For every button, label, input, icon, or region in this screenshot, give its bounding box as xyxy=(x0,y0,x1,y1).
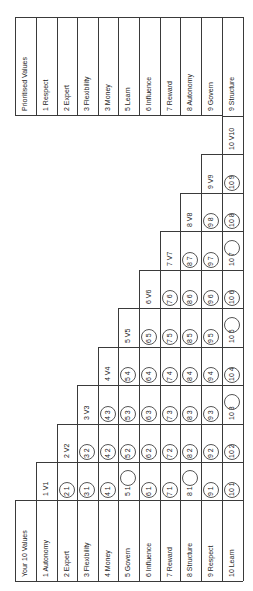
choice-circle[interactable] xyxy=(79,444,95,460)
prioritised-item: 1 Respect xyxy=(42,79,50,111)
matrix-right-edge xyxy=(243,116,244,500)
choice-circle[interactable] xyxy=(182,470,198,486)
matrix-header-v6: 6 V6 xyxy=(145,290,153,304)
choice-circle[interactable] xyxy=(100,406,116,422)
choice-circle[interactable] xyxy=(203,213,219,229)
choice-circle[interactable] xyxy=(182,406,198,422)
choice-circle[interactable] xyxy=(182,367,198,383)
prioritised-item: 2 Expert xyxy=(63,85,71,111)
choice-circle[interactable] xyxy=(224,444,240,460)
matrix-col-line xyxy=(77,385,78,500)
matrix-header-v3: 3 V3 xyxy=(83,406,91,420)
matrix-header-v8: 8 V8 xyxy=(186,213,194,227)
choice-circle[interactable] xyxy=(59,482,75,498)
matrix-row-line xyxy=(222,116,243,117)
choice-circle[interactable] xyxy=(203,252,219,268)
choice-circle[interactable] xyxy=(203,444,219,460)
choice-circle[interactable] xyxy=(141,329,157,345)
choice-circle[interactable] xyxy=(203,406,219,422)
value-item: 7 Reward xyxy=(166,547,174,577)
choice-circle[interactable] xyxy=(162,482,178,498)
names-divider xyxy=(118,500,119,581)
matrix-row-line xyxy=(57,424,243,425)
prioritised-divider xyxy=(98,17,99,115)
prioritised-divider xyxy=(222,17,223,115)
choice-circle[interactable] xyxy=(182,252,198,268)
prioritised-table-bottom xyxy=(15,115,223,116)
choice-circle[interactable] xyxy=(162,406,178,422)
choice-circle[interactable] xyxy=(182,329,198,345)
names-divider xyxy=(57,500,58,581)
choice-circle[interactable] xyxy=(224,290,240,306)
choice-circle[interactable] xyxy=(120,367,136,383)
choice-circle[interactable] xyxy=(162,367,178,383)
names-divider xyxy=(36,500,37,581)
matrix-header-v1: 1 V1 xyxy=(42,482,50,496)
choice-circle[interactable] xyxy=(100,482,116,498)
names-table-left xyxy=(15,500,16,581)
choice-circle[interactable] xyxy=(79,482,95,498)
choice-circle[interactable] xyxy=(224,317,240,333)
prioritised-divider xyxy=(77,17,78,115)
value-item: 1 Autonomy xyxy=(42,540,50,577)
choice-circle[interactable] xyxy=(224,240,240,256)
matrix-col-line xyxy=(180,193,181,500)
choice-circle[interactable] xyxy=(224,175,240,191)
choice-circle[interactable] xyxy=(120,444,136,460)
prioritised-divider xyxy=(160,17,161,115)
choice-circle[interactable] xyxy=(224,213,240,229)
choice-circle[interactable] xyxy=(224,394,240,410)
matrix-col-line xyxy=(201,154,202,500)
matrix-header-v7: 7 V7 xyxy=(166,252,174,266)
values-header: Your 10 Values xyxy=(21,530,29,577)
names-table-right xyxy=(243,500,244,581)
names-divider xyxy=(139,500,140,581)
matrix-header-v2: 2 V2 xyxy=(63,444,71,458)
matrix-col-line xyxy=(36,462,37,500)
matrix-header-v9: 9 V9 xyxy=(207,175,215,189)
choice-circle[interactable] xyxy=(141,406,157,422)
names-table-top xyxy=(15,500,243,501)
pair-cell: 5 1 xyxy=(124,486,132,496)
value-item: 6 Influence xyxy=(145,543,153,577)
prioritised-header: Prioritised Values xyxy=(21,57,29,111)
choice-circle[interactable] xyxy=(141,444,157,460)
prioritised-item: 9 Govern xyxy=(207,82,215,111)
prioritised-item: 3 Money xyxy=(104,84,112,111)
prioritised-item: 9 Structure xyxy=(228,77,236,111)
prioritised-divider xyxy=(201,17,202,115)
choice-circle[interactable] xyxy=(224,367,240,383)
matrix-col-line xyxy=(160,231,161,500)
choice-circle[interactable] xyxy=(162,444,178,460)
prioritised-item: 6 Influence xyxy=(145,77,153,111)
value-item: 2 Expert xyxy=(63,551,71,577)
choice-circle[interactable] xyxy=(203,290,219,306)
choice-circle[interactable] xyxy=(203,482,219,498)
prioritised-divider xyxy=(180,17,181,115)
choice-circle[interactable] xyxy=(100,444,116,460)
names-divider xyxy=(77,500,78,581)
matrix-col-line xyxy=(98,347,99,500)
choice-circle[interactable] xyxy=(162,329,178,345)
prioritised-item: 5 Learn xyxy=(124,87,132,111)
pair-cell: 8 1 xyxy=(186,486,194,496)
choice-circle[interactable] xyxy=(182,444,198,460)
names-divider xyxy=(98,500,99,581)
choice-circle[interactable] xyxy=(141,482,157,498)
choice-circle[interactable] xyxy=(182,290,198,306)
prioritised-item: 3 Flexibility xyxy=(83,76,91,111)
choice-circle[interactable] xyxy=(203,329,219,345)
matrix-header-v5: 5 V5 xyxy=(124,329,132,343)
choice-circle[interactable] xyxy=(203,367,219,383)
choice-circle[interactable] xyxy=(120,470,136,486)
prioritised-divider xyxy=(118,17,119,115)
value-item: 5 Govern xyxy=(124,548,132,577)
matrix-row-line xyxy=(180,193,243,194)
choice-circle[interactable] xyxy=(120,406,136,422)
choice-circle[interactable] xyxy=(162,290,178,306)
choice-circle[interactable] xyxy=(224,482,240,498)
matrix-col-line xyxy=(222,116,223,500)
choice-circle[interactable] xyxy=(141,367,157,383)
value-item: 8 Structure xyxy=(186,543,194,577)
prioritised-divider xyxy=(15,17,16,115)
